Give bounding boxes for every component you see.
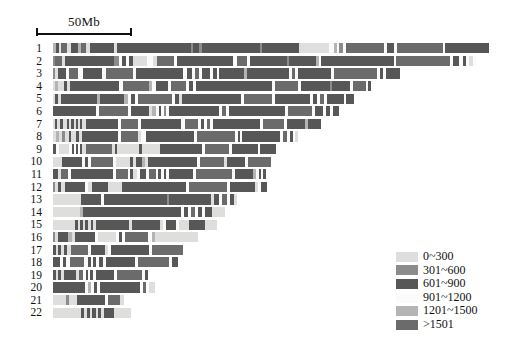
chromosome-label-6: 6 — [0, 105, 46, 118]
chromosome-bar-22 — [53, 308, 131, 318]
chromosome-band — [62, 157, 82, 167]
chromosome-band — [114, 308, 122, 318]
chromosome-band — [136, 68, 183, 78]
chromosome-bar-2 — [53, 56, 476, 66]
legend-label: 0~300 — [423, 250, 454, 264]
chromosome-band — [77, 295, 105, 305]
chromosome-band — [53, 194, 81, 204]
chromosome-band — [106, 257, 135, 267]
chromosome-band — [261, 182, 267, 192]
chromosome-band — [276, 144, 279, 154]
chromosome-band — [59, 144, 69, 154]
legend-item: 301~600 — [396, 264, 512, 278]
chromosome-band — [346, 43, 383, 53]
legend-item: >1501 — [396, 318, 512, 332]
chromosome-bar-14 — [53, 207, 225, 217]
chromosome-band — [160, 144, 202, 154]
chromosome-band — [83, 68, 102, 78]
chromosome-band — [58, 232, 68, 242]
chromosome-band — [205, 220, 217, 230]
chromosome-band — [177, 56, 234, 66]
chromosome-band — [301, 81, 330, 91]
chromosome-band — [116, 157, 130, 167]
chromosome-band — [148, 157, 198, 167]
chromosome-band — [61, 94, 97, 104]
chromosome-band — [117, 43, 191, 53]
chromosome-band — [219, 68, 243, 78]
legend-swatch — [396, 320, 418, 330]
chromosome-band — [69, 295, 77, 305]
legend-swatch — [396, 279, 418, 289]
chromosome-band — [332, 81, 350, 91]
chromosome-band — [53, 282, 85, 292]
chromosome-band — [86, 144, 112, 154]
chromosome-band — [213, 119, 259, 129]
chromosome-label-17: 17 — [0, 244, 46, 257]
chromosome-band — [96, 220, 130, 230]
chromosome-band — [117, 270, 142, 280]
chromosome-row: 16 — [0, 231, 513, 244]
chromosome-band — [83, 207, 181, 217]
chromosome-band — [396, 56, 451, 66]
chromosome-band — [315, 106, 323, 116]
chromosome-band — [327, 94, 343, 104]
chromosome-band — [102, 232, 116, 242]
chromosome-bar-12 — [53, 182, 267, 192]
chromosome-band — [71, 43, 78, 53]
chromosome-band — [121, 131, 137, 141]
chromosome-band — [308, 119, 320, 129]
chromosome-bar-17 — [53, 245, 183, 255]
chromosome-band — [299, 43, 329, 53]
chromosome-label-18: 18 — [0, 256, 46, 269]
chromosome-label-4: 4 — [0, 80, 46, 93]
chromosome-band — [132, 220, 160, 230]
chromosome-band — [333, 106, 339, 116]
chromosome-band — [205, 144, 229, 154]
chromosome-band — [58, 68, 66, 78]
chromosome-band — [96, 270, 114, 280]
chromosome-band — [158, 232, 166, 242]
chromosome-band — [123, 81, 149, 91]
chromosome-bar-19 — [53, 270, 148, 280]
chromosome-band — [242, 131, 279, 141]
chromosome-band — [386, 68, 399, 78]
chromosome-band — [71, 169, 113, 179]
chromosome-band — [247, 68, 289, 78]
chromosome-label-1: 1 — [0, 42, 46, 55]
chromosome-band — [321, 56, 394, 66]
chromosome-row: 13 — [0, 193, 513, 206]
chromosome-band — [120, 295, 124, 305]
chromosome-band — [235, 169, 253, 179]
chromosome-band — [234, 194, 237, 204]
chromosome-band — [353, 81, 366, 91]
chromosome-bar-9 — [53, 144, 279, 154]
chromosome-band — [215, 207, 225, 217]
chromosome-band — [169, 194, 211, 204]
chromosome-band — [260, 144, 276, 154]
chromosome-band — [445, 43, 488, 53]
legend-label: >1501 — [423, 318, 454, 332]
chromosome-band — [71, 245, 88, 255]
scale-bar-tick-left — [36, 28, 38, 36]
chromosome-band — [122, 182, 186, 192]
chromosome-band — [185, 119, 198, 129]
chromosome-band — [149, 282, 155, 292]
legend-swatch — [396, 306, 418, 316]
scale-bar-label: 50Mb — [36, 14, 132, 30]
chromosome-band — [172, 257, 178, 267]
chromosome-band — [200, 157, 224, 167]
chromosome-band — [368, 81, 371, 91]
chromosome-band — [166, 220, 176, 230]
chromosome-band — [266, 169, 269, 179]
chromosome-band — [70, 81, 119, 91]
chromosome-band — [142, 144, 160, 154]
chromosome-band — [99, 106, 128, 116]
chromosome-band — [82, 131, 118, 141]
chromosome-band — [202, 43, 261, 53]
chromosome-row: 1 — [0, 42, 513, 55]
chromosome-band — [121, 119, 139, 129]
chromosome-band — [196, 169, 231, 179]
chromosome-row: 3 — [0, 67, 513, 80]
chromosome-band — [149, 169, 156, 179]
chromosome-row: 6 — [0, 105, 513, 118]
